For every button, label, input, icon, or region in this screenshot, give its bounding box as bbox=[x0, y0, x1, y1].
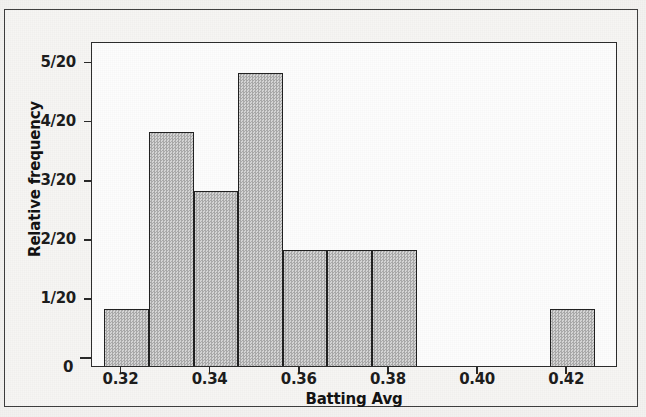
y-axis-tick-label: 3/20 bbox=[5, 171, 76, 189]
x-axis-tick-label: 0.36 bbox=[264, 370, 334, 388]
figure-outer-frame: Relative frequency 1/202/203/204/205/20 … bbox=[4, 9, 638, 407]
y-axis-tick-label: 5/20 bbox=[5, 53, 76, 71]
y-axis-tick-mark bbox=[84, 121, 91, 123]
y-axis-tick-label: 1/20 bbox=[5, 289, 76, 307]
x-axis-tick-label: 0.40 bbox=[442, 370, 512, 388]
histogram-figure: Relative frequency 1/202/203/204/205/20 … bbox=[0, 0, 646, 417]
y-axis-tick-label: 2/20 bbox=[5, 230, 76, 248]
x-axis-tick-label: 0.38 bbox=[353, 370, 423, 388]
y-axis-tick-mark bbox=[84, 62, 91, 64]
histogram-bar bbox=[104, 309, 149, 367]
histogram-bar bbox=[550, 309, 595, 367]
x-axis-tick-label: 0.32 bbox=[85, 370, 155, 388]
histogram-bar bbox=[149, 132, 194, 367]
y-axis-tick-mark bbox=[84, 180, 91, 182]
histogram-bar bbox=[327, 250, 372, 367]
plot-area bbox=[91, 42, 617, 367]
x-axis-tick-label: 0.42 bbox=[531, 370, 601, 388]
x-axis-baseline-stub bbox=[80, 357, 87, 359]
y-axis-tick-mark bbox=[84, 298, 91, 300]
histogram-bar bbox=[283, 250, 328, 367]
y-axis-tick-mark bbox=[84, 239, 91, 241]
y-axis-tick-label: 4/20 bbox=[5, 112, 76, 130]
histogram-bar bbox=[194, 191, 239, 367]
histogram-bar bbox=[372, 250, 417, 367]
x-axis-title: Batting Avg bbox=[91, 390, 617, 408]
x-axis-tick-label: 0.34 bbox=[175, 370, 245, 388]
histogram-bar bbox=[238, 73, 283, 367]
y-axis-zero-label: 0 bbox=[63, 358, 73, 376]
